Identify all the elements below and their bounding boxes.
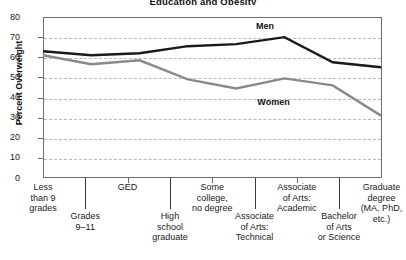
category-label-line: degree (344, 193, 406, 204)
gridlines (44, 18, 381, 177)
y-axis-tick-label: 80 (0, 13, 20, 22)
series-label-women: Women (257, 97, 289, 107)
category-label-line: college, (175, 193, 249, 204)
category-label-line: GED (91, 182, 165, 193)
category-connector-line (85, 178, 86, 209)
y-axis-tick-label: 20 (0, 133, 20, 142)
y-axis-tick-label: 30 (0, 113, 20, 122)
category-label-line: etc.) (344, 214, 406, 225)
gridline (44, 159, 381, 160)
x-axis-category-label: GED (91, 182, 165, 193)
chart-figure: Education and Obesity Percent Overweight… (0, 0, 406, 260)
x-axis-category-label: Associateof Arts:Technical (218, 211, 292, 243)
gridline (44, 58, 381, 59)
gridline (44, 99, 381, 100)
category-label-line: (MA, PhD, (344, 203, 406, 214)
chart-title: Education and Obesity (0, 0, 406, 5)
gridline (44, 38, 381, 39)
gridline (44, 119, 381, 120)
category-label-line: of Arts: (218, 222, 292, 233)
plot-area (43, 17, 382, 178)
x-axis-category-label: Somecollege,no degree (175, 182, 249, 214)
x-axis-category-label: Highschoolgraduate (133, 211, 207, 243)
category-label-line: Associate (260, 182, 334, 193)
category-label-line: graduate (133, 232, 207, 243)
category-label-line: Some (175, 182, 249, 193)
gridline (44, 139, 381, 140)
category-connector-line (339, 178, 340, 209)
category-label-line: of Arts: (260, 193, 334, 204)
y-axis-tick-label: 10 (0, 153, 20, 162)
category-label-line: than 9 (6, 193, 80, 204)
x-axis-category-label: Lessthan 9grades (6, 182, 80, 214)
y-axis-tick-label: 50 (0, 73, 20, 82)
y-axis-tick-label: 70 (0, 33, 20, 42)
y-axis-tick-label: 40 (0, 93, 20, 102)
x-axis-category-label: Grades9–11 (48, 211, 122, 232)
category-label-line: Less (6, 182, 80, 193)
series-label-men: Men (256, 21, 274, 31)
category-label-line: or Science (302, 232, 376, 243)
category-label-line: school (133, 222, 207, 233)
category-label-line: Graduate (344, 182, 406, 193)
category-label-line: 9–11 (48, 222, 122, 233)
x-axis-category-label: Associateof Arts:Academic (260, 182, 334, 214)
category-connector-line (170, 178, 171, 209)
category-label-line: Technical (218, 232, 292, 243)
category-label-line: Grades (48, 211, 122, 222)
x-axis-category-label: Graduatedegree(MA, PhD,etc.) (344, 182, 406, 224)
y-axis-tick-label: 60 (0, 53, 20, 62)
category-connector-line (255, 178, 256, 209)
gridline (44, 78, 381, 79)
